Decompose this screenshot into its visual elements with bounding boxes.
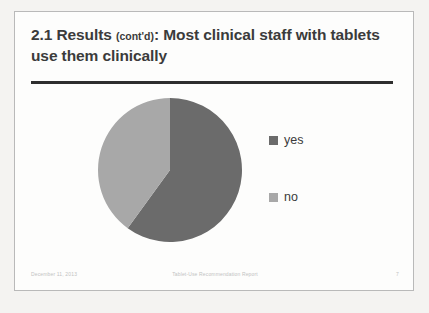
legend-swatch-yes: [269, 136, 278, 145]
chart-legend: yes no: [269, 132, 379, 205]
title-divider: [31, 81, 393, 84]
scanned-page: 2.1 Results (cont'd): Most clinical staf…: [0, 0, 429, 313]
pie-chart-svg: [97, 97, 243, 243]
pie-slice-group: [98, 98, 242, 242]
legend-item-no[interactable]: no: [269, 189, 379, 205]
title-text-part-1: 2.1 Results: [31, 26, 116, 43]
legend-label-no: no: [284, 191, 298, 204]
legend-label-yes: yes: [284, 134, 303, 147]
legend-item-yes[interactable]: yes: [269, 132, 379, 148]
slide-canvas: 2.1 Results (cont'd): Most clinical staf…: [14, 11, 414, 291]
slide-footer: December 11, 2013 Tablet-Use Recommendat…: [15, 271, 415, 281]
title-contd-note: (cont'd): [116, 30, 154, 42]
footer-document-title: Tablet-Use Recommendation Report: [15, 271, 415, 277]
pie-chart: [97, 97, 243, 243]
title-block: 2.1 Results (cont'd): Most clinical staf…: [31, 25, 389, 66]
chart-area: yes no: [15, 88, 415, 258]
legend-swatch-no: [269, 193, 278, 202]
page-title: 2.1 Results (cont'd): Most clinical staf…: [31, 25, 389, 66]
footer-page-number: 7: [396, 271, 399, 277]
